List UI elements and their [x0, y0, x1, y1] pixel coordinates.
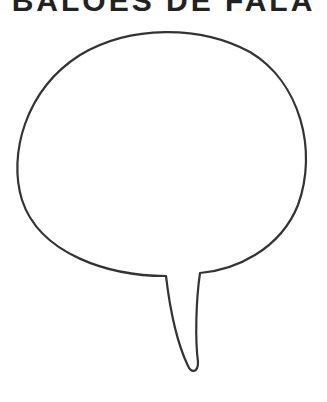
speech-bubble-icon [0, 0, 327, 402]
speech-bubble-outline [17, 32, 306, 371]
